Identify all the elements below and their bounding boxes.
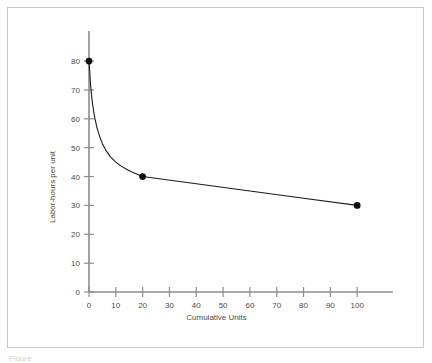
x-tick-label-90: 90	[326, 301, 335, 310]
x-tick-label-70: 70	[272, 301, 281, 310]
y-tick-label-10: 10	[56, 259, 80, 268]
x-axis-title: Cumulative Units	[8, 313, 425, 322]
x-tick-label-10: 10	[111, 301, 120, 310]
data-point-markers	[86, 58, 361, 209]
x-tick-label-0: 0	[87, 301, 91, 310]
chart-plot-area: 01020304050607080 0102030405060708090100…	[8, 8, 425, 349]
y-tick-label-70: 70	[56, 85, 80, 94]
y-axis-title: Labor-hours per unit	[48, 151, 57, 223]
x-tick-label-60: 60	[245, 301, 254, 310]
data-point-100-30	[354, 202, 361, 209]
y-tick-label-80: 80	[56, 57, 80, 66]
x-tick-label-30: 30	[165, 301, 174, 310]
x-tick-label-80: 80	[299, 301, 308, 310]
y-tick-label-0: 0	[56, 288, 80, 297]
figure-caption: Figure	[9, 353, 32, 362]
figure-frame: 01020304050607080 0102030405060708090100…	[7, 7, 424, 348]
y-tick-label-30: 30	[56, 201, 80, 210]
y-tick-label-20: 20	[56, 230, 80, 239]
y-tick-label-60: 60	[56, 114, 80, 123]
x-tick-label-100: 100	[350, 301, 363, 310]
y-tick-label-40: 40	[56, 172, 80, 181]
y-tick-label-50: 50	[56, 143, 80, 152]
data-line-learning-curve	[89, 61, 357, 205]
x-tick-label-40: 40	[192, 301, 201, 310]
x-tick-label-50: 50	[219, 301, 228, 310]
data-point-0-80	[86, 58, 93, 65]
x-tick-label-20: 20	[138, 301, 147, 310]
data-point-20-40	[139, 173, 146, 180]
